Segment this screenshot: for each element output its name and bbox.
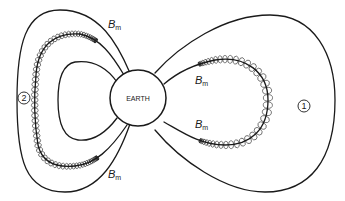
mirror-point-label-right-top: Bm — [195, 74, 208, 87]
earth-label: EARTH — [126, 95, 150, 102]
magnetosphere-diagram: EARTH Bm Bm Bm Bm 2 1 — [0, 0, 345, 201]
svg-text:1: 1 — [301, 101, 306, 111]
svg-text:2: 2 — [21, 93, 26, 103]
region-marker-1: 1 — [298, 100, 310, 112]
mirror-point-label-left-bottom: Bm — [108, 168, 121, 181]
mirror-point-label-left-top: Bm — [108, 18, 121, 31]
mirror-point-label-right-bottom: Bm — [195, 118, 208, 131]
right-particle-helix — [198, 55, 273, 149]
left-inner-field-line — [58, 62, 117, 141]
region-marker-2: 2 — [18, 92, 30, 104]
